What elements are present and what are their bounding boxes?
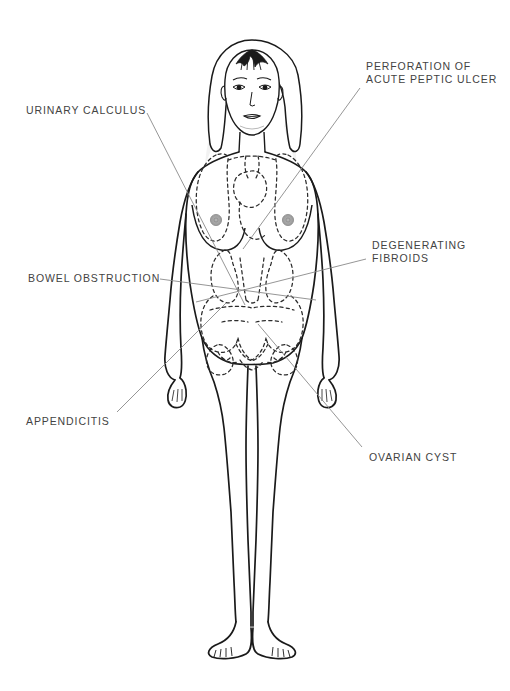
label-ovarian-cyst: OVARIAN CYST xyxy=(369,451,457,464)
left-nipple xyxy=(210,214,221,225)
right-nipple xyxy=(282,214,293,225)
label-degenerating-fibroids: DEGENERATING FIBROIDS xyxy=(372,239,466,265)
head xyxy=(221,50,283,135)
label-urinary-calculus: URINARY CALCULUS xyxy=(26,104,146,117)
body-outline xyxy=(165,152,339,659)
label-perforation-acute-peptic-ulcer: PERFORATION OF ACUTE PEPTIC ULCER xyxy=(366,60,497,86)
fingers xyxy=(172,389,332,402)
leader-line-ovarian-cyst xyxy=(258,324,362,447)
label-bowel-obstruction: BOWEL OBSTRUCTION xyxy=(28,272,160,285)
label-appendicitis: APPENDICITIS xyxy=(26,415,110,428)
diagram-canvas: URINARY CALCULUS PERFORATION OF ACUTE PE… xyxy=(0,0,510,691)
